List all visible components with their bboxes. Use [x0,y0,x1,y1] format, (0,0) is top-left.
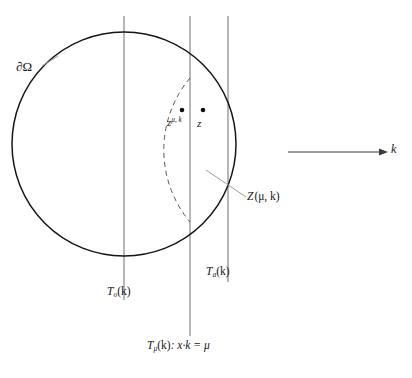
label-t-a-arg: (k) [216,265,229,277]
leader-line-boundary-label [42,56,58,66]
label-plane-t-a: Ta(k) [206,266,230,278]
point-z-dot [201,108,206,113]
label-zone-z-args: (μ, k) [254,190,279,202]
label-vector-k: k [391,143,396,155]
label-t-mu-equation: : x·k = μ [171,339,210,351]
label-zone-z: Z (μ, k) [247,191,280,203]
leader-line-z-label [206,170,246,197]
label-plane-t-mu-equation: Tμ(k): x·k = μ [147,340,210,352]
label-t-o-arg: (k) [117,285,130,297]
label-t-mu-arg: (k) [157,339,170,351]
label-z-mu-k-superscript: μ, k [171,116,181,124]
k-vector-arrowhead [379,149,388,156]
dashed-reflected-arc [164,78,190,222]
diagram-svg [0,0,412,378]
point-z-mu-k-dot [180,108,185,113]
label-domain-boundary: ∂Ω [16,60,32,73]
figure-canvas: ∂Ω zμ, k z Z (μ, k) To(k) Ta(k) Tμ(k): x… [0,0,412,378]
label-point-z-mu-k: zμ, k [167,117,182,128]
label-point-z: z [197,118,201,129]
label-plane-t-o: To(k) [107,286,131,298]
